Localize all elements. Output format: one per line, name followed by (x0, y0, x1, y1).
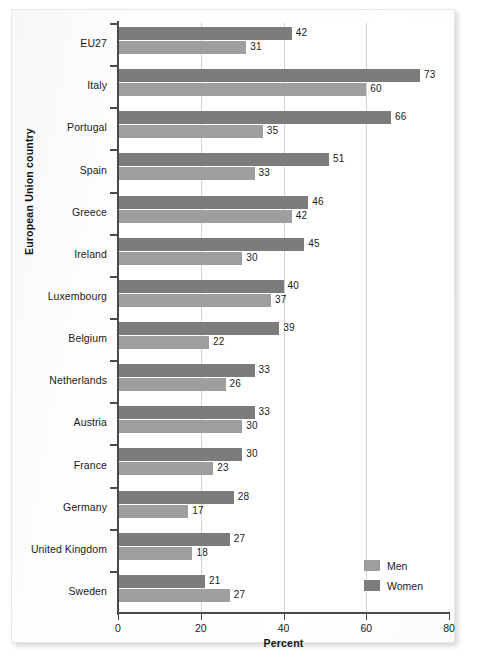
bar-men (118, 125, 263, 138)
y-axis-tick (110, 107, 117, 109)
bar-value-label: 27 (234, 588, 246, 601)
category-label: Portugal (7, 121, 107, 133)
y-axis-line (117, 21, 119, 615)
bar-value-label: 27 (234, 532, 246, 545)
x-axis-tick-label: 80 (443, 622, 455, 634)
bar-value-label: 17 (192, 504, 204, 517)
bar-group: 4642 (118, 192, 449, 234)
bar-men (118, 294, 271, 307)
bar-value-label: 46 (312, 195, 324, 208)
bar-group: 3023 (118, 444, 449, 486)
bar-women (118, 406, 255, 419)
bar-group: 2817 (118, 487, 449, 529)
y-axis-tick (110, 276, 117, 278)
y-axis-tick (110, 487, 117, 489)
bar-group: 3326 (118, 360, 449, 402)
y-axis-tick (110, 149, 117, 151)
bar-value-label: 66 (395, 110, 407, 123)
x-axis-tick (118, 614, 119, 620)
y-axis-tick (110, 318, 117, 320)
bar-value-label: 33 (259, 166, 271, 179)
y-axis-category-labels: EU27ItalyPortugalSpainGreeceIrelandLuxem… (0, 23, 107, 613)
bar-value-label: 30 (246, 447, 258, 460)
legend-label: Women (387, 580, 423, 592)
bar-value-label: 31 (250, 40, 262, 53)
bar-value-label: 45 (308, 237, 320, 250)
bar-group: 3330 (118, 402, 449, 444)
chart-figure: European Union country EU27ItalyPortugal… (0, 0, 482, 662)
bar-value-label: 39 (283, 321, 295, 334)
legend-item: Women (364, 577, 444, 594)
bar-men (118, 210, 292, 223)
x-axis-tick (366, 614, 367, 620)
bar-women (118, 280, 284, 293)
bar-group: 7360 (118, 65, 449, 107)
legend-swatch-icon (364, 580, 380, 591)
bar-women (118, 533, 230, 546)
y-axis-tick (110, 360, 117, 362)
bar-value-label: 26 (230, 377, 242, 390)
bar-value-label: 60 (370, 82, 382, 95)
bar-value-label: 21 (209, 574, 221, 587)
bar-women (118, 322, 279, 335)
legend-swatch-icon (364, 560, 380, 571)
bar-men (118, 83, 366, 96)
bar-value-label: 30 (246, 251, 258, 264)
category-label: France (7, 459, 107, 471)
bar-group: 6635 (118, 107, 449, 149)
category-label: Sweden (7, 585, 107, 597)
bar-men (118, 378, 226, 391)
category-label: Italy (7, 79, 107, 91)
bar-value-label: 35 (267, 124, 279, 137)
bar-women (118, 238, 304, 251)
category-label: Austria (7, 416, 107, 428)
x-axis-title: Percent (118, 637, 449, 649)
bar-group: 4037 (118, 276, 449, 318)
category-label: EU27 (7, 37, 107, 49)
chart-legend: MenWomen (364, 557, 444, 597)
bar-value-label: 33 (259, 405, 271, 418)
y-axis-tick (110, 192, 117, 194)
bar-value-label: 30 (246, 419, 258, 432)
category-label: Germany (7, 501, 107, 513)
y-axis-tick (110, 402, 117, 404)
y-axis-tick (110, 65, 117, 67)
bar-group: 3922 (118, 318, 449, 360)
bar-value-label: 51 (333, 152, 345, 165)
bar-value-label: 23 (217, 461, 229, 474)
bar-women (118, 153, 329, 166)
category-label: Belgium (7, 332, 107, 344)
bar-value-label: 40 (288, 279, 300, 292)
category-label: Netherlands (7, 374, 107, 386)
bar-men (118, 462, 213, 475)
legend-label: Men (387, 560, 407, 572)
bar-group: 4530 (118, 234, 449, 276)
y-axis-tick (110, 529, 117, 531)
bar-value-label: 73 (424, 68, 436, 81)
category-label: United Kingdom (7, 543, 107, 555)
bar-men (118, 252, 242, 265)
bar-men (118, 336, 209, 349)
bar-value-label: 22 (213, 335, 225, 348)
bar-men (118, 167, 255, 180)
y-axis-tick (110, 444, 117, 446)
y-axis-tick (110, 23, 117, 25)
bar-women (118, 111, 391, 124)
bar-men (118, 505, 188, 518)
bar-women (118, 69, 420, 82)
bar-men (118, 420, 242, 433)
bar-group: 5133 (118, 149, 449, 191)
legend-item: Men (364, 557, 444, 574)
bar-men (118, 589, 230, 602)
y-axis-tick (110, 234, 117, 236)
x-axis-tick (201, 614, 202, 620)
x-axis-tick-label: 0 (115, 622, 121, 634)
bar-group: 4231 (118, 23, 449, 65)
bar-women (118, 364, 255, 377)
bar-value-label: 28 (238, 490, 250, 503)
x-axis-tick (284, 614, 285, 620)
category-label: Spain (7, 164, 107, 176)
bar-value-label: 42 (296, 26, 308, 39)
bar-value-label: 37 (275, 293, 287, 306)
bar-women (118, 491, 234, 504)
